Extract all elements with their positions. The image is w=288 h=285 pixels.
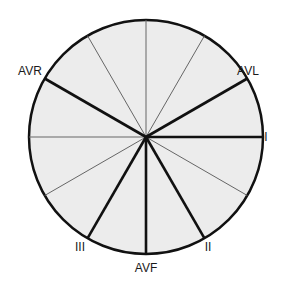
- lead-label-iii: III: [75, 240, 85, 254]
- hexaxial-diagram: IAVLIIAVFIIIAVR: [0, 0, 288, 285]
- lead-label-i: I: [264, 130, 267, 144]
- lead-label-avr: AVR: [18, 64, 42, 78]
- lead-label-ii: II: [205, 240, 212, 254]
- lead-label-avl: AVL: [237, 64, 259, 78]
- lead-label-avf: AVF: [135, 261, 157, 275]
